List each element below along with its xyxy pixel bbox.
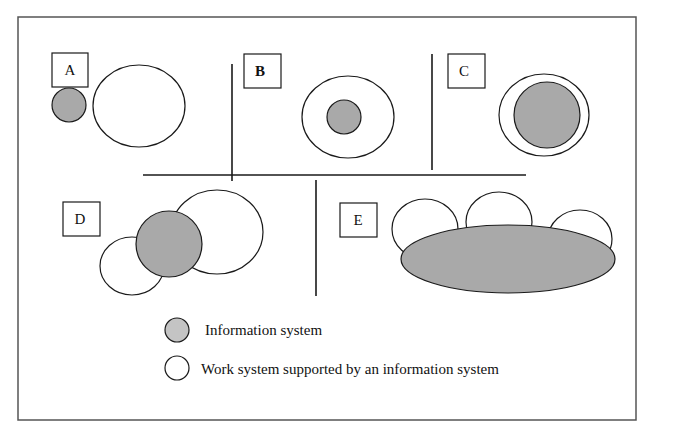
information-system-circle: [52, 88, 86, 122]
legend-work-system-icon: [165, 356, 189, 380]
information-system-circle: [136, 211, 202, 277]
information-system-circle: [514, 82, 580, 148]
legend: Information system Work system supported…: [165, 318, 499, 380]
legend-work-system-label: Work system supported by an information …: [201, 361, 499, 377]
panel-c: C: [448, 54, 589, 156]
panel-e-label: E: [353, 212, 362, 228]
panel-b-label: B: [255, 63, 265, 79]
legend-information-system-label: Information system: [205, 322, 322, 338]
work-system-ellipse: [93, 65, 185, 147]
panel-a: A: [52, 53, 185, 147]
information-system-circle: [327, 100, 361, 134]
panel-d-label: D: [75, 211, 86, 227]
panel-a-label: A: [65, 62, 76, 78]
diagram-canvas: A B C D E Information system Wo: [0, 0, 683, 440]
panel-b: B: [244, 54, 394, 158]
information-system-ellipse: [401, 225, 615, 293]
legend-information-system-icon: [165, 318, 189, 342]
panel-e: E: [340, 192, 615, 293]
panel-d: D: [63, 190, 263, 295]
panel-c-label: C: [459, 63, 469, 79]
